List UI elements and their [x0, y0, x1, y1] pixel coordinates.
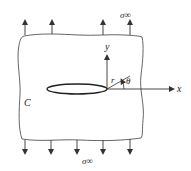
- bottom-stress-arrows: [25, 139, 130, 152]
- x-axis-label: x: [176, 83, 182, 94]
- contour-label: C: [24, 97, 31, 108]
- crack: [47, 84, 107, 94]
- theta-arc: [122, 81, 124, 89]
- plate-boundary: [18, 34, 143, 141]
- angle-label: θ: [126, 76, 131, 86]
- y-axis-label: y: [104, 41, 110, 52]
- stress-label-top: σ∞: [120, 10, 131, 20]
- diagram-svg: σ∞ σ∞ y x r θ C: [0, 0, 191, 171]
- top-stress-arrows: [25, 22, 130, 35]
- crack-plate-diagram: σ∞ σ∞ y x r θ C: [0, 0, 191, 171]
- radius-label: r: [111, 75, 115, 85]
- stress-label-bottom: σ∞: [82, 156, 93, 166]
